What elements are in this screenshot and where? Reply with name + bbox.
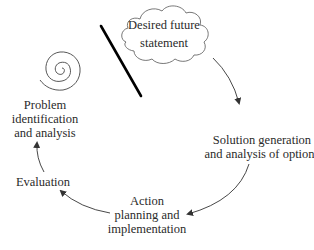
start-label-line-1: Desired future (128, 18, 200, 32)
solution-label-line-1: Solution generation (205, 133, 314, 147)
start-node-label: Desired future statement (128, 18, 200, 50)
problem-label-line-1: Problem (12, 98, 79, 112)
action-label-line-3: implementation (108, 222, 186, 236)
node-action-label: Action planning and implementation (108, 194, 186, 236)
evaluation-label-line-1: Evaluation (16, 175, 70, 189)
problem-label-line-2: identification (12, 112, 79, 126)
node-evaluation-label: Evaluation (16, 175, 70, 189)
action-label-line-2: planning and (108, 208, 186, 222)
problem-label-line-3: and analysis (12, 126, 79, 140)
arrow-solution-to-action (188, 164, 249, 214)
arrow-action-to-evaluation (61, 191, 110, 213)
arrow-start-to-solution (213, 58, 239, 103)
spiral-icon (40, 52, 87, 90)
start-label-line-2: statement (128, 36, 200, 50)
node-solution-label: Solution generation and analysis of opti… (205, 133, 314, 161)
node-problem-label: Problem identification and analysis (12, 98, 79, 140)
solution-label-line-2: and analysis of options (205, 147, 314, 161)
action-label-line-1: Action (108, 194, 186, 208)
arrow-evaluation-to-problem (37, 143, 44, 172)
